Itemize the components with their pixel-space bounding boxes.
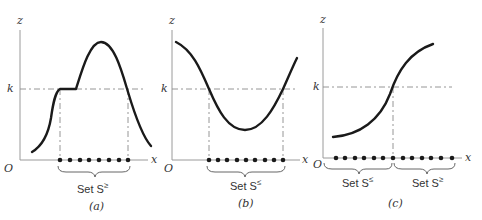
figure-canvas: z x O k Set S≥ (a) z x O k Set S≤ (b) bbox=[0, 0, 482, 220]
set-label: Set S≥ bbox=[77, 181, 109, 195]
panel-a: z x O k Set S≥ (a) bbox=[4, 14, 158, 213]
function-curve bbox=[333, 44, 433, 137]
brace bbox=[207, 166, 285, 177]
origin-label: O bbox=[4, 162, 13, 175]
set-label-right: Set S≥ bbox=[412, 175, 444, 189]
z-label: z bbox=[319, 13, 326, 26]
k-label: k bbox=[7, 82, 14, 95]
brace bbox=[58, 166, 130, 177]
z-label: z bbox=[168, 14, 175, 27]
k-label: k bbox=[161, 82, 168, 95]
set-label: Set S≤ bbox=[230, 178, 262, 192]
panel-c: z x O k Set S≤ Set S≥ (c) bbox=[313, 13, 472, 210]
panel-caption: (a) bbox=[89, 200, 104, 213]
panel-caption: (c) bbox=[388, 197, 403, 210]
function-curve bbox=[176, 42, 297, 130]
brace-right bbox=[394, 163, 455, 174]
z-label: z bbox=[16, 14, 23, 27]
brace-left bbox=[324, 163, 392, 174]
x-label: x bbox=[465, 151, 472, 164]
origin-label: O bbox=[164, 162, 173, 175]
origin-label: O bbox=[313, 158, 322, 171]
panel-caption: (b) bbox=[238, 197, 254, 210]
k-label: k bbox=[313, 80, 320, 93]
x-label: x bbox=[302, 153, 309, 166]
function-curve bbox=[32, 42, 151, 152]
x-label: x bbox=[151, 153, 158, 166]
panel-b: z x O k Set S≤ (b) bbox=[161, 14, 309, 210]
point-set bbox=[207, 158, 286, 163]
set-label-left: Set S≤ bbox=[342, 175, 374, 189]
